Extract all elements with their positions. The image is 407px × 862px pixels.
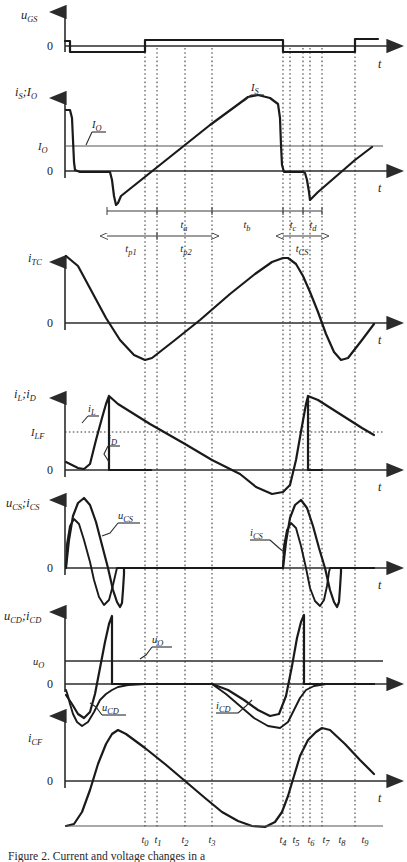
svg-text:uCS: uCS <box>118 510 134 524</box>
zero-label-ucs: 0 <box>47 561 53 575</box>
interval-label-td: td <box>309 219 317 233</box>
plot-il-id: iL;iD ILF 0 t iL iD <box>14 387 388 494</box>
t-label-ugs: t <box>378 57 382 71</box>
tick-label-t1: t1 <box>154 834 161 848</box>
waveform-itc <box>66 256 374 360</box>
zero-label-il: 0 <box>47 463 53 477</box>
tick-label-t3: t3 <box>208 834 215 848</box>
t-label-il: t <box>378 480 382 494</box>
interval-label-tp2: tp2 <box>180 243 191 257</box>
plot-ugs: uGS 0 t <box>21 8 388 71</box>
t-label-is: t <box>378 181 382 195</box>
axis-label-ucd-icd: uCD;iCD <box>4 609 41 625</box>
plot-is-io: iS;IO IO 0 t IS IO <box>15 82 388 205</box>
svg-text:IS: IS <box>250 82 260 96</box>
inline-label-uCS: uCS <box>102 510 140 536</box>
inline-label-iL: iL <box>82 403 99 423</box>
plot-icf: iCF 0 t <box>28 716 388 827</box>
plot-ucd-icd: uCD;iCD uO 0 uO uCD iCD <box>4 609 388 728</box>
zero-label-icf: 0 <box>47 774 53 788</box>
interval-row-b: tp1 tp2 tCS <box>107 232 322 257</box>
tick-label-t6: t6 <box>307 834 315 848</box>
t-label-icf: t <box>378 791 382 805</box>
waveform-ics <box>66 519 374 606</box>
interval-label-tc: tc <box>290 219 297 233</box>
level-label-ILF: ILF <box>30 427 45 441</box>
tick-label-t4: t4 <box>279 834 286 848</box>
inline-label-IS: IS <box>244 82 264 101</box>
interval-label-ta: ta <box>180 219 187 233</box>
inline-label-IO: IO <box>86 119 106 145</box>
plot-itc: iTC 0 t <box>28 251 388 360</box>
zero-label-ugs: 0 <box>47 39 53 53</box>
level-label-IO: IO <box>37 141 48 155</box>
waveform-icf <box>66 728 374 827</box>
tick-label-t8: t8 <box>338 834 346 848</box>
waveform-figure: uGS 0 t iS;IO IO 0 t IS IO <box>0 0 407 862</box>
plot-ucs-ics: uCS;iCS 0 t uCS iCS <box>6 496 388 607</box>
svg-text:uCD: uCD <box>102 702 119 716</box>
t-label-ucs: t <box>378 578 382 592</box>
interval-row-a: ta tb tc td <box>107 207 322 233</box>
inline-label-uO: uO <box>140 634 172 659</box>
tick-label-t9: t9 <box>361 834 369 848</box>
level-label-uO: uO <box>33 656 44 670</box>
axis-label-ucs-ics: uCS;iCS <box>6 496 40 512</box>
zero-label-itc: 0 <box>47 316 53 330</box>
tick-label-t5: t5 <box>292 834 299 848</box>
inline-label-iD: iD <box>104 433 120 462</box>
time-tick-labels: t0 t1 t2 t3 t4 t5 t6 t7 t8 t9 <box>141 834 369 848</box>
svg-text:iCD: iCD <box>216 700 231 714</box>
figure-caption: Figure 2. Current and voltage changes in… <box>8 850 205 862</box>
interval-label-tcs: tCS <box>296 243 310 257</box>
axis-label-il-id: iL;iD <box>14 387 36 403</box>
svg-text:iCS: iCS <box>250 527 264 541</box>
inline-label-iCS: iCS <box>250 527 284 552</box>
svg-text:IO: IO <box>91 119 102 133</box>
interval-label-tp1: tp1 <box>125 243 136 257</box>
svg-text:iL: iL <box>88 403 96 417</box>
axis-label-ugs: uGS <box>21 8 38 24</box>
tick-label-t0: t0 <box>141 834 149 848</box>
zero-label-is: 0 <box>47 164 53 178</box>
tick-label-t2: t2 <box>181 834 188 848</box>
zero-label-ucd: 0 <box>47 677 53 691</box>
waveform-ucd <box>66 615 374 718</box>
axis-label-is-io: iS;IO <box>15 85 37 101</box>
waveform-ucs <box>66 498 374 607</box>
t-label-itc: t <box>378 333 382 347</box>
waveform-is <box>66 95 372 205</box>
tick-label-t7: t7 <box>322 834 330 848</box>
svg-text:uO: uO <box>152 634 163 648</box>
axis-label-itc: iTC <box>28 251 42 267</box>
axis-label-icf: iCF <box>28 731 43 747</box>
interval-label-tb: tb <box>243 219 250 233</box>
